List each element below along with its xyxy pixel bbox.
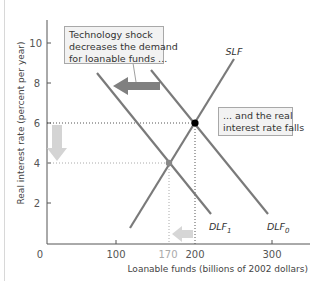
demand-shift-arrow [113, 77, 160, 95]
note-line: decreases the demand [69, 41, 159, 53]
dlf0-curve [151, 70, 268, 214]
x-tick-label-200: 200 [185, 249, 204, 260]
x-tick-label-100: 100 [106, 249, 125, 260]
y-tick-label-6: 6 [34, 118, 40, 129]
x-axis-title: Loanable funds (billions of 2002 dollars… [128, 264, 308, 274]
note-line: for loanable funds ... [69, 53, 159, 65]
x-tick-label-300: 300 [262, 249, 281, 260]
guide-lines [47, 123, 195, 244]
dlf0-label: DLF0 [267, 221, 290, 235]
note-line: Technology shock [69, 29, 159, 41]
y-tick-label-4: 4 [34, 158, 40, 169]
initial-equilibrium-point [191, 119, 198, 126]
interest-rate-falls-note: ... and the real interest rate falls [218, 107, 293, 136]
y-tick-label-10: 10 [29, 38, 42, 49]
x-tick-label-170: 170 [158, 249, 177, 260]
left-arrow-small-icon [172, 226, 193, 242]
dlf1-label: DLF1 [209, 221, 232, 235]
note-line: ... and the real [223, 110, 288, 122]
dlf1-curve [97, 73, 211, 214]
down-arrow-icon [47, 125, 67, 161]
note-line: interest rate falls [223, 122, 288, 134]
new-equilibrium-point [166, 160, 172, 166]
quantity-falls-arrow [172, 226, 193, 242]
y-axis-title: Real interest rate (percent per year) [16, 41, 26, 204]
y-tick-label-2: 2 [34, 198, 40, 209]
x-tick-labels: 0 100 170 200 300 [37, 249, 282, 260]
rate-falls-arrow [47, 125, 67, 161]
technology-shock-note: Technology shock decreases the demand fo… [64, 26, 164, 64]
slf-label: SLF [226, 46, 243, 57]
y-tick-labels: 2 4 6 8 10 [29, 38, 42, 209]
y-tick-label-8: 8 [34, 78, 40, 89]
note-leader-line [133, 63, 136, 82]
x-tick-label-0: 0 [37, 249, 43, 260]
left-arrow-icon [113, 77, 160, 95]
